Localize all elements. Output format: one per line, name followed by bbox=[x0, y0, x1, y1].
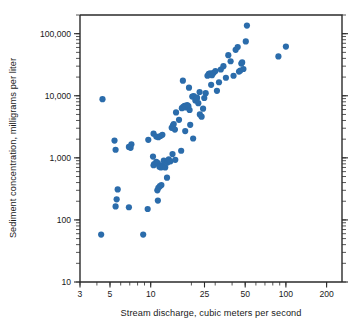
data-point bbox=[145, 137, 151, 143]
data-point bbox=[99, 96, 105, 102]
y-tick-label: 10,000 bbox=[45, 91, 72, 101]
y-tick-label: 10 bbox=[61, 277, 71, 287]
plot-frame bbox=[80, 15, 342, 282]
data-point bbox=[187, 107, 193, 113]
data-point bbox=[199, 114, 205, 120]
data-point bbox=[172, 157, 178, 163]
data-point bbox=[186, 85, 192, 91]
data-point bbox=[111, 137, 117, 143]
x-axis-title: Stream discharge, cubic meters per secon… bbox=[121, 308, 302, 318]
data-point bbox=[190, 135, 196, 141]
data-point bbox=[159, 132, 165, 138]
data-point bbox=[98, 232, 104, 238]
data-point bbox=[214, 88, 220, 94]
data-point bbox=[155, 197, 161, 203]
data-point bbox=[140, 232, 146, 238]
data-point bbox=[194, 95, 200, 101]
x-tick-label: 25 bbox=[200, 289, 210, 299]
data-point bbox=[126, 204, 132, 210]
y-axis-title: Sediment concentration, milligrams per l… bbox=[8, 58, 18, 238]
data-point bbox=[228, 58, 234, 64]
data-point bbox=[230, 73, 236, 79]
data-point bbox=[239, 59, 245, 65]
y-axis-tick-labels: 101001,00010,000100,000 bbox=[40, 29, 71, 287]
data-point bbox=[243, 38, 249, 44]
data-point bbox=[158, 182, 164, 188]
data-point bbox=[212, 68, 218, 74]
x-tick-label: 3 bbox=[78, 289, 83, 299]
data-point bbox=[275, 53, 281, 59]
data-point bbox=[182, 128, 188, 134]
data-point bbox=[195, 100, 201, 106]
x-tick-label: 200 bbox=[319, 289, 334, 299]
plot-border bbox=[80, 15, 342, 282]
data-point bbox=[244, 23, 250, 29]
data-point bbox=[115, 186, 121, 192]
data-point bbox=[197, 89, 203, 95]
data-point bbox=[150, 153, 156, 159]
data-point bbox=[223, 75, 229, 81]
data-point bbox=[235, 44, 241, 50]
data-point bbox=[171, 121, 177, 127]
data-point-group bbox=[98, 23, 289, 238]
x-tick-label: 50 bbox=[240, 289, 250, 299]
data-point bbox=[128, 141, 134, 147]
data-point bbox=[240, 66, 246, 72]
data-point bbox=[216, 79, 222, 85]
data-point bbox=[225, 52, 231, 58]
y-tick-label: 100 bbox=[57, 215, 72, 225]
data-point bbox=[176, 117, 182, 123]
data-point bbox=[200, 106, 206, 112]
x-axis-tick-labels: 35102550100200 bbox=[78, 289, 334, 299]
data-point bbox=[180, 78, 186, 84]
data-point bbox=[112, 147, 118, 153]
data-point bbox=[208, 82, 214, 88]
axis-lines bbox=[80, 15, 342, 282]
x-tick-label: 10 bbox=[146, 289, 156, 299]
data-point bbox=[283, 43, 289, 49]
data-point bbox=[164, 175, 170, 181]
data-point bbox=[187, 122, 193, 128]
y-tick-label: 1,000 bbox=[49, 153, 71, 163]
data-point bbox=[172, 127, 178, 133]
data-point bbox=[220, 63, 226, 69]
x-tick-label: 100 bbox=[279, 289, 294, 299]
data-point bbox=[145, 206, 151, 212]
data-point bbox=[173, 109, 179, 115]
scatter-plot-figure: 35102550100200 101001,00010,000100,000 S… bbox=[0, 0, 358, 328]
chart-canvas: 35102550100200 101001,00010,000100,000 S… bbox=[0, 0, 358, 328]
data-point bbox=[203, 90, 209, 96]
x-axis-ticks bbox=[80, 282, 327, 288]
y-tick-label: 100,000 bbox=[40, 29, 71, 39]
x-tick-label: 5 bbox=[108, 289, 113, 299]
data-point bbox=[114, 196, 120, 202]
data-point bbox=[169, 151, 175, 157]
data-point bbox=[112, 203, 118, 209]
data-point bbox=[178, 148, 184, 154]
